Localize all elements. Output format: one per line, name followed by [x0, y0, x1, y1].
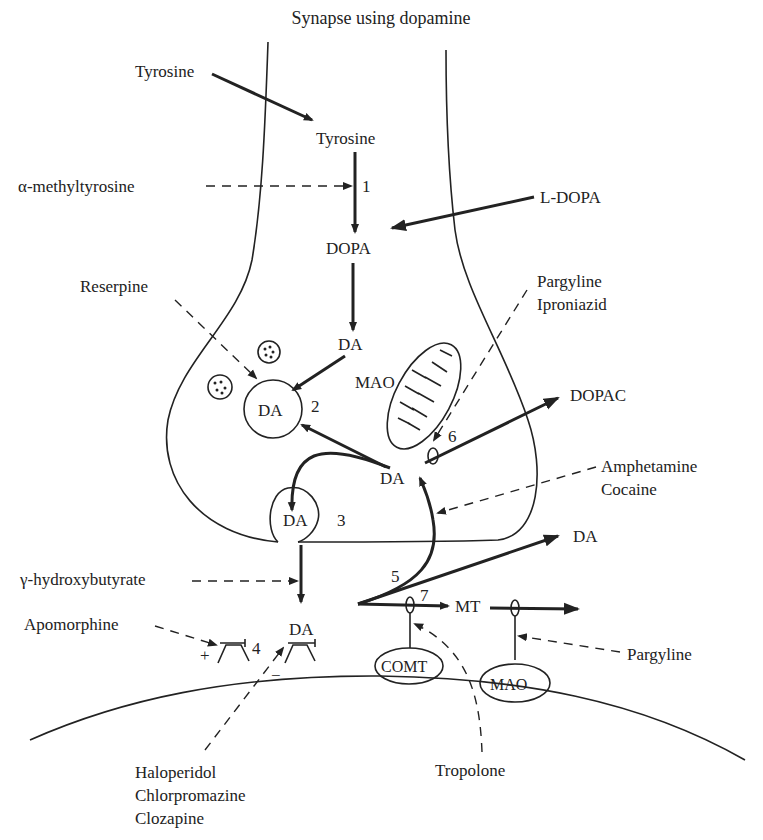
da-to-dopac-arrow [425, 398, 558, 463]
plus-sign: + [200, 646, 210, 665]
step-1: 1 [362, 177, 371, 196]
da-to-mt-arrow [358, 604, 448, 606]
diagram-title: Synapse using dopamine [292, 8, 471, 28]
da-cleft-out-label: DA [573, 527, 598, 546]
minus-sign: − [271, 666, 281, 685]
reuptake-inhibitor-arrow [438, 467, 596, 513]
dopa-label: DOPA [326, 239, 371, 258]
apomorphine-arrow [155, 626, 216, 645]
step-6: 6 [448, 427, 457, 446]
pargyline-inhibition-arrow [519, 636, 620, 652]
mao-mitochondrial-label: MAO [355, 373, 395, 392]
reserpine-inhibition [175, 300, 256, 378]
apomorphine-label: Apomorphine [24, 615, 118, 634]
pargyline-label-bottom: Pargyline [627, 645, 692, 664]
alpha-methyltyrosine-label: α-methyltyrosine [18, 177, 135, 196]
da-release-vesicle-label: DA [283, 511, 308, 530]
dopamine-synapse-diagram: Synapse using dopamine DA 3 Tyrosine Tyr… [0, 0, 763, 840]
amphetamine-label: Amphetamine [601, 457, 697, 476]
small-vesicle-icon [258, 341, 280, 363]
mt-label: MT [455, 597, 481, 616]
step-4: 4 [252, 639, 261, 658]
mitochondrion [372, 332, 476, 461]
reserpine-label: Reserpine [80, 277, 148, 296]
mao-inhibitor-arrow [434, 290, 527, 440]
small-vesicle-icon [208, 375, 232, 399]
da-diffusion-arrow [358, 536, 558, 604]
iproniazid-label: Iproniazid [537, 295, 607, 314]
chlorpromazine-label: Chlorpromazine [135, 786, 245, 805]
step-7: 7 [420, 586, 429, 605]
tropolone-label: Tropolone [435, 761, 505, 780]
da-to-release-vesicle-arrow [292, 453, 390, 510]
step-2: 2 [311, 397, 320, 416]
l-dopa-arrow [392, 197, 534, 228]
tyrosine-intracellular: Tyrosine [316, 129, 375, 148]
da-vesicle-label: DA [258, 401, 283, 420]
mao-postsynaptic-label: MAO [490, 676, 527, 693]
clozapine-label: Clozapine [135, 809, 204, 828]
pargyline-label-top: Pargyline [537, 272, 602, 291]
da-cytosol-label: DA [338, 335, 363, 354]
l-dopa-label: L-DOPA [540, 188, 601, 207]
tropolone-inhibition-arrow [415, 624, 482, 752]
tyrosine-extracellular: Tyrosine [135, 62, 194, 81]
step-3: 3 [337, 511, 346, 530]
gamma-hydroxybutyrate-label: γ-hydroxybutyrate [19, 570, 146, 589]
tyrosine-uptake-arrow [212, 74, 312, 120]
cocaine-label: Cocaine [601, 480, 657, 499]
receptor-icon [218, 639, 249, 663]
receptor-icon [285, 639, 315, 663]
haloperidol-label: Haloperidol [135, 763, 216, 782]
da-receptor-label: DA [289, 620, 314, 639]
mt-degradation-arrow [490, 608, 578, 609]
postsynaptic-membrane [30, 676, 745, 760]
antipsychotic-inhibition [205, 648, 283, 750]
da-free-label: DA [380, 469, 405, 488]
step-5: 5 [391, 567, 400, 586]
da-to-vesicle-arrow [293, 356, 345, 390]
comt-label: COMT [381, 658, 427, 675]
dopac-label: DOPAC [570, 386, 626, 405]
